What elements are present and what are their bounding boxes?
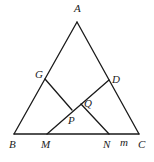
segment-gp <box>45 79 72 110</box>
point-label-m: M <box>40 138 51 150</box>
segments-group <box>14 22 139 134</box>
segment-md <box>47 80 109 134</box>
point-label-a: A <box>73 2 81 14</box>
point-label-b: B <box>9 138 16 150</box>
geometry-figure: ABCGDMNPQm <box>0 0 154 162</box>
triangle-diagram: ABCGDMNPQm <box>0 0 154 162</box>
segment-ac <box>77 22 139 134</box>
point-label-g: G <box>35 68 43 80</box>
point-label-p: P <box>67 114 75 126</box>
point-label-m: m <box>120 136 128 148</box>
point-label-q: Q <box>84 97 92 109</box>
point-label-n: N <box>102 138 111 150</box>
point-label-d: D <box>111 73 120 85</box>
point-label-c: C <box>138 138 146 150</box>
